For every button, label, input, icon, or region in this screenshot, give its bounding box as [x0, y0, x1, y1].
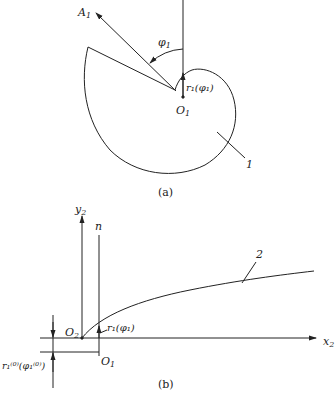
cam-profile	[84, 47, 235, 173]
label-phi1: φ1	[158, 36, 171, 50]
label-initial-radius: r₁⁽⁰⁾(φ₁⁽⁰⁾)	[2, 360, 45, 371]
origin-point-o1	[182, 96, 184, 98]
diagram-canvas: A1 φ1 r₁(φ₁) O1 1 (a) y2 n x2 O2 O1 r₁(φ…	[0, 0, 335, 394]
label-a1: A1	[77, 6, 91, 20]
label-o2: O2	[65, 326, 79, 340]
radius-leader-b	[100, 330, 107, 333]
label-r1-phi1: r₁(φ₁)	[186, 82, 214, 93]
ray-a1	[96, 13, 176, 91]
origin-point-o2	[81, 337, 83, 339]
caption-a: (a)	[158, 186, 173, 199]
angle-arc-phi1	[150, 49, 183, 63]
figure-a	[84, 0, 245, 173]
figure-b	[40, 216, 316, 388]
label-o1: O1	[176, 104, 190, 118]
label-r1-phi1-b: r₁(φ₁)	[107, 322, 135, 333]
label-o1-b: O1	[101, 355, 115, 369]
label-n: n	[95, 220, 102, 233]
label-part-1: 1	[246, 158, 253, 171]
caption-b: (b)	[158, 378, 174, 391]
label-part-2: 2	[255, 248, 263, 261]
label-x2: x2	[323, 335, 334, 349]
label-y2: y2	[74, 203, 86, 217]
